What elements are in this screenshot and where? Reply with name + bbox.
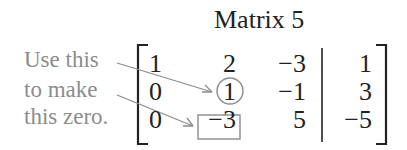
- matrix-cell-r2-c0: 0: [120, 106, 162, 134]
- matrix-cell-r0-c1: 2: [196, 50, 236, 78]
- matrix-cell-r0-c0: 1: [120, 50, 162, 78]
- matrix-cell-r2-c2: 5: [266, 106, 306, 134]
- matrix-cell-r2-c3: −5: [332, 106, 372, 134]
- matrix-cell-r1-c0: 0: [120, 78, 162, 106]
- matrix-cell-r1-c3: 3: [332, 78, 372, 106]
- matrix-cell-r0-c3: 1: [332, 50, 372, 78]
- matrix-cell-r2-c1-boxed: −3: [196, 106, 236, 134]
- matrix-cell-r1-c1-circled: 1: [196, 78, 236, 106]
- matrix-cell-r1-c2: −1: [266, 78, 306, 106]
- matrix-cell-r0-c2: −3: [266, 50, 306, 78]
